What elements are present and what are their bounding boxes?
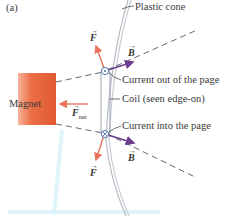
field-arrow-top xyxy=(108,62,133,70)
net-force-label: →Fnet xyxy=(72,108,87,121)
plastic-cone-label: Plastic cone xyxy=(135,2,185,13)
current-out-label: Current out of the page xyxy=(122,75,219,86)
coil-label: Coil (seen edge-on) xyxy=(122,94,205,105)
field-bottom-label: →B xyxy=(128,153,135,163)
field-arrow-bottom xyxy=(108,135,134,143)
faint-background-shapes xyxy=(8,130,160,215)
current-in-icon xyxy=(101,130,108,137)
speaker-diagram: (a) Plastic cone Current out of the page… xyxy=(0,0,232,219)
diagram-canvas xyxy=(0,0,232,219)
current-in-label: Current into the page xyxy=(122,121,211,132)
field-top-label: →B xyxy=(128,48,135,58)
current-out-icon xyxy=(101,67,108,74)
force-bottom-label: →F xyxy=(90,168,97,178)
force-top-label: →F xyxy=(90,33,97,43)
magnet-label: Magnet xyxy=(9,99,41,110)
force-arrow-bottom xyxy=(96,135,104,160)
panel-label: (a) xyxy=(6,3,18,14)
